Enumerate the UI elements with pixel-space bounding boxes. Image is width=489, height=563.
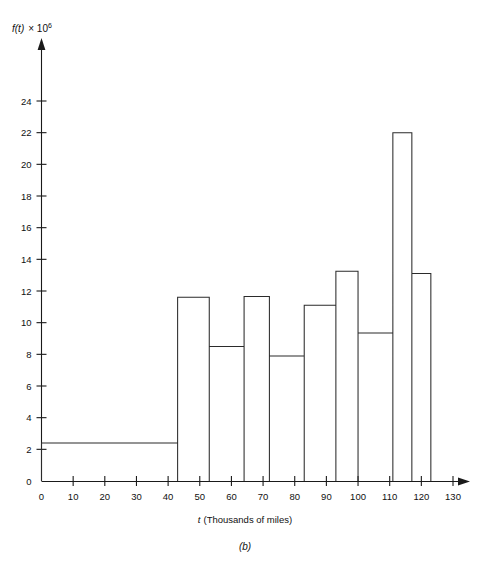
histogram-figure: f(t)× 106 024681012141618202224 01020304… (0, 0, 489, 563)
x-tick-label: 10 (68, 491, 79, 502)
svg-text:f(t)× 106: f(t)× 106 (12, 22, 52, 34)
x-tick-label: 40 (163, 491, 174, 502)
y-axis-label: f(t)× 106 (12, 22, 52, 34)
x-axis-caption-text: (Thousands of miles) (203, 514, 292, 525)
y-tick-label: 20 (21, 159, 32, 170)
x-tick-label: 60 (226, 491, 237, 502)
axes (38, 38, 470, 485)
y-tick-label: 24 (21, 96, 32, 107)
y-tick-label: 18 (21, 191, 32, 202)
chart-canvas: f(t)× 106 024681012141618202224 01020304… (0, 0, 489, 563)
y-tick-label: 12 (21, 286, 32, 297)
x-tick-label: 80 (289, 491, 300, 502)
x-axis-caption: t(Thousands of miles) (198, 514, 292, 525)
y-axis-label-function: f(t) (12, 23, 24, 34)
y-tick-label: 16 (21, 222, 32, 233)
x-tick-label: 50 (194, 491, 205, 502)
x-tick-label: 90 (321, 491, 332, 502)
x-tick-label: 120 (413, 491, 429, 502)
y-tick-label: 8 (26, 349, 31, 360)
y-tick-label: 6 (26, 381, 31, 392)
x-tick-label: 70 (258, 491, 269, 502)
y-axis-arrowhead (38, 38, 46, 50)
y-axis-label-multiplier: × 10 (28, 23, 48, 34)
y-tick-label: 14 (21, 254, 32, 265)
y-axis-ticks: 024681012141618202224 (21, 96, 47, 487)
y-tick-label: 10 (21, 317, 32, 328)
x-tick-label: 20 (100, 491, 111, 502)
x-tick-label: 0 (39, 491, 44, 502)
x-tick-label: 30 (131, 491, 142, 502)
x-axis-ticks: 0102030405060708090100110120130 (39, 476, 461, 502)
figure-caption: (b) (239, 541, 251, 552)
x-tick-label: 100 (350, 491, 366, 502)
y-tick-label: 2 (26, 444, 31, 455)
y-tick-label: 0 (26, 476, 31, 487)
x-axis-caption-variable: t (198, 514, 201, 525)
x-tick-label: 130 (445, 491, 461, 502)
y-tick-label: 4 (26, 412, 31, 423)
x-tick-label: 110 (382, 491, 397, 502)
histogram-outline (42, 133, 431, 481)
y-axis-label-exponent: 6 (48, 22, 52, 29)
y-tick-label: 22 (21, 127, 32, 138)
x-axis-arrowhead (458, 478, 470, 486)
